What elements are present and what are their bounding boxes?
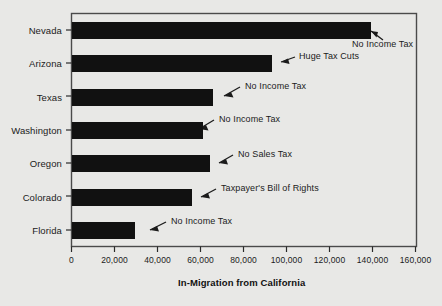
arrow-oregon	[219, 155, 233, 163]
bar-washington	[72, 122, 203, 139]
bar-nevada	[72, 22, 371, 39]
arrow-arizona	[281, 57, 295, 62]
y-label-florida: Florida	[0, 225, 62, 236]
annotation-florida: No Income Tax	[171, 216, 232, 226]
x-tick-160000: 160,000	[386, 255, 442, 265]
bar-oregon	[72, 155, 210, 172]
annotation-nevada: No Income Tax	[352, 39, 413, 49]
bar-colorado	[72, 189, 192, 206]
annotation-texas: No Income Tax	[245, 81, 306, 91]
y-label-nevada: Nevada	[0, 25, 62, 36]
annotation-arizona: Huge Tax Cuts	[299, 51, 359, 61]
y-label-texas: Texas	[0, 92, 62, 103]
arrow-florida	[150, 222, 166, 230]
bar-texas	[72, 89, 213, 106]
arrow-texas	[224, 87, 240, 96]
y-label-arizona: Arizona	[0, 58, 62, 69]
arrow-colorado	[201, 189, 216, 197]
annotation-washington: No Income Tax	[219, 114, 280, 124]
y-label-colorado: Colorado	[0, 192, 62, 203]
annotation-colorado: Taxpayer's Bill of Rights	[221, 183, 319, 193]
x-axis-ticks	[72, 247, 416, 253]
y-axis-ticks	[66, 30, 72, 230]
y-label-oregon: Oregon	[0, 158, 62, 169]
bar-arizona	[72, 55, 272, 72]
bar-chart: Nevada Arizona Texas Washington Oregon C…	[0, 0, 442, 306]
x-axis-title: In-Migration from California	[178, 277, 305, 288]
y-label-washington: Washington	[0, 125, 62, 136]
annotation-oregon: No Sales Tax	[238, 149, 292, 159]
bar-florida	[72, 222, 135, 239]
